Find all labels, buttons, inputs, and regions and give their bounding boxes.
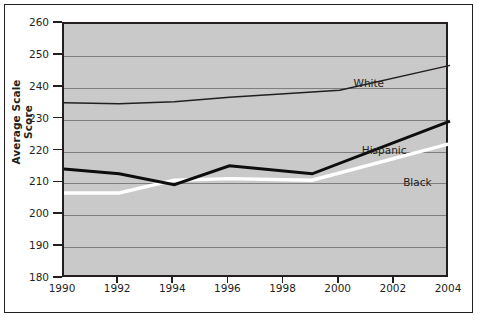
x-axis-tick-mark — [227, 277, 229, 283]
series-label-white: White — [354, 77, 385, 89]
series-label-black: Black — [403, 176, 431, 188]
y-axis-tick-label: 220 — [3, 145, 49, 155]
y-axis-tick-mark — [53, 181, 62, 183]
series-line-white — [64, 65, 450, 103]
plot-area: WhiteHispanicBlack — [62, 22, 448, 277]
y-axis-tick-label: 210 — [3, 176, 49, 186]
y-axis-tick-mark — [53, 149, 62, 151]
y-axis-tick-label: 200 — [3, 208, 49, 218]
x-axis-tick-mark — [171, 277, 173, 283]
x-axis-tick-label: 1994 — [146, 282, 198, 294]
x-axis-tick-label: 1992 — [91, 282, 143, 294]
y-axis-tick-mark — [53, 117, 62, 119]
x-axis-tick-mark — [392, 277, 394, 283]
x-axis-tick-label: 2004 — [422, 282, 474, 294]
x-axis-tick-mark — [282, 277, 284, 283]
x-axis-tick-mark — [337, 277, 339, 283]
x-axis-tick-label: 1998 — [257, 282, 309, 294]
y-axis-tick-mark — [53, 21, 62, 23]
x-axis-tick-label: 1990 — [36, 282, 88, 294]
y-axis-tick-label: 260 — [3, 17, 49, 27]
y-axis-tick-mark — [53, 85, 62, 87]
y-axis-tick-mark — [53, 53, 62, 55]
x-axis-tick-label: 2000 — [312, 282, 364, 294]
series-label-hispanic: Hispanic — [362, 144, 407, 156]
y-axis-tick-label: 230 — [3, 113, 49, 123]
chart-figure: Average Scale Score 18019020021022023024… — [0, 0, 481, 321]
y-axis-tick-label: 180 — [3, 272, 49, 282]
y-axis-tick-mark — [53, 276, 62, 278]
x-axis-tick-label: 1996 — [201, 282, 253, 294]
x-axis-tick-mark — [116, 277, 118, 283]
y-axis: Average Scale Score 18019020021022023024… — [0, 0, 62, 321]
x-axis-tick-label: 2002 — [367, 282, 419, 294]
y-axis-tick-mark — [53, 212, 62, 214]
y-axis-tick-label: 240 — [3, 81, 49, 91]
y-axis-tick-label: 250 — [3, 49, 49, 59]
y-axis-tick-label: 190 — [3, 240, 49, 250]
y-axis-tick-mark — [53, 244, 62, 246]
